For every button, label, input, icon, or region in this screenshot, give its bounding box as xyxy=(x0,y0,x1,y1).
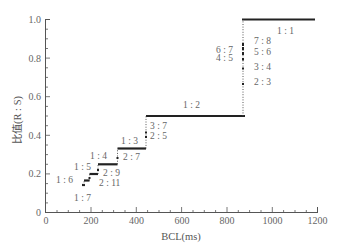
step-ratio-chart: 1.0 0.8 0.6 0.4 0.2 0 0 200 400 600 800 … xyxy=(0,0,340,249)
x-tick-labels: 0 200 400 600 800 1000 1200 xyxy=(44,215,328,226)
x-tick-label: 600 xyxy=(175,215,190,226)
ratio-label-2-5: 2 : 5 xyxy=(150,131,167,141)
x-tick-label: 0 xyxy=(44,215,49,226)
x-ticks xyxy=(57,207,306,213)
ratio-label-2-11: 2 : 11 xyxy=(99,178,121,188)
ratio-label-1-2: 1 : 2 xyxy=(183,100,200,110)
ratio-label-1-1: 1 : 1 xyxy=(277,26,294,36)
y-tick-labels: 1.0 0.8 0.6 0.4 0.2 0 xyxy=(29,14,42,218)
ratio-label-1-3: 1 : 3 xyxy=(121,136,138,146)
ratio-label-5-6: 5 : 6 xyxy=(254,47,271,57)
ratio-labels: 1 : 7 1 : 6 1 : 5 2 : 11 2 : 9 1 : 4 2 :… xyxy=(56,26,294,203)
ratio-label-2-9: 2 : 9 xyxy=(103,168,120,178)
y-tick-label: 0.2 xyxy=(29,168,42,179)
x-tick-label: 200 xyxy=(84,215,99,226)
y-tick-label: 0.8 xyxy=(29,53,42,64)
y-tick-label: 1.0 xyxy=(29,14,42,25)
ratio-label-7-8: 7 : 8 xyxy=(254,36,271,46)
ratio-label-1-5: 1 : 5 xyxy=(74,162,91,172)
x-tick-label: 400 xyxy=(129,215,144,226)
ratio-label-2-7: 2 : 7 xyxy=(123,152,140,162)
ratio-label-3-4: 3 : 4 xyxy=(254,62,271,72)
x-tick-label: 1200 xyxy=(308,215,328,226)
ratio-label-1-6: 1 : 6 xyxy=(56,175,73,185)
y-tick-label: 0 xyxy=(36,207,41,218)
x-tick-label: 1000 xyxy=(263,215,283,226)
ratio-label-1-7: 1 : 7 xyxy=(74,193,91,203)
ratio-label-3-7: 3 : 7 xyxy=(150,121,167,131)
x-axis-title: BCL(ms) xyxy=(161,231,201,243)
ratio-label-4-5: 4 : 5 xyxy=(216,53,233,63)
ratio-label-2-3: 2 : 3 xyxy=(254,77,271,87)
ratio-label-1-4: 1 : 4 xyxy=(90,151,107,161)
x-tick-label: 800 xyxy=(220,215,235,226)
transition-points xyxy=(89,43,245,179)
y-tick-label: 0.4 xyxy=(29,130,42,141)
y-tick-label: 0.6 xyxy=(29,91,42,102)
y-axis-title: 比值(R : S) xyxy=(11,96,24,145)
